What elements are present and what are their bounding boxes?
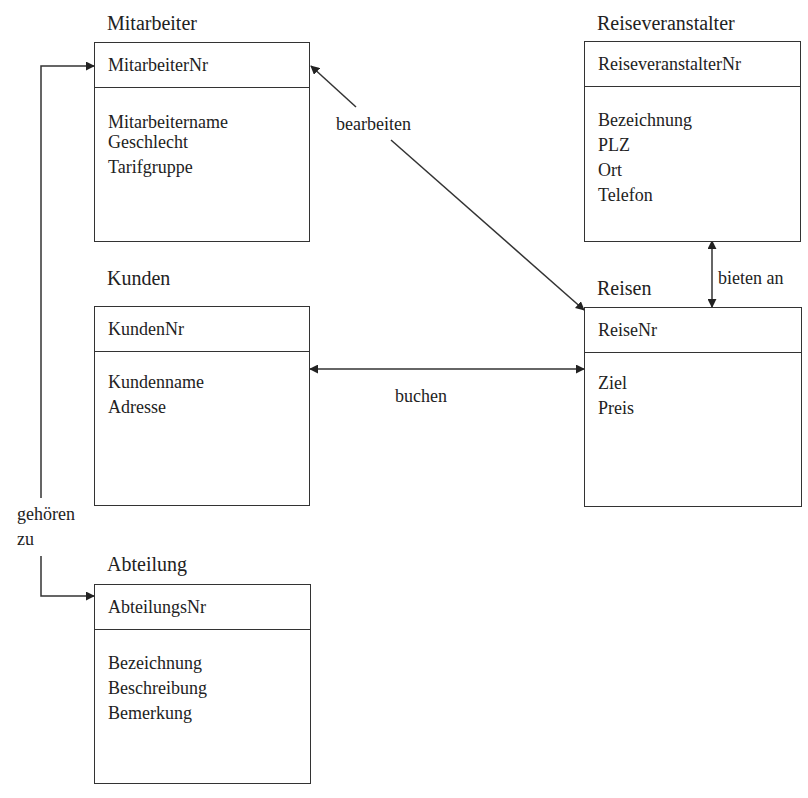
entity-abteilung: AbteilungsNr Bezeichnung Beschreibung Be…: [94, 584, 311, 784]
attribute: Beschreibung: [108, 676, 207, 701]
attribute: Tarifgruppe: [108, 156, 228, 179]
entity-title-kunden: Kunden: [107, 267, 170, 289]
primary-key-kunden: KundenNr: [95, 307, 309, 352]
label-line: zu: [17, 527, 75, 552]
attribute: Ort: [598, 158, 692, 183]
attribute-list-kunden: Kundenname Adresse: [108, 370, 204, 420]
attribute: PLZ: [598, 133, 692, 158]
primary-key-mitarbeiter: MitarbeiterNr: [95, 43, 309, 88]
attribute: Kundenname: [108, 370, 204, 395]
key-label: ReiseveranstalterNr: [598, 54, 741, 75]
entity-title-abteilung: Abteilung: [107, 553, 187, 575]
attribute: Bezeichnung: [598, 108, 692, 133]
attribute-list-reiseveranstalter: Bezeichnung PLZ Ort Telefon: [598, 108, 692, 208]
label-line: gehören: [17, 502, 75, 527]
relationship-label-buchen: buchen: [395, 386, 447, 406]
bearbeiten-connector: [311, 66, 584, 310]
entity-kunden: KundenNr Kundenname Adresse: [94, 306, 310, 506]
attribute: Telefon: [598, 183, 692, 208]
entity-mitarbeiter: MitarbeiterNr Mitarbeitername Geschlecht…: [94, 42, 310, 242]
primary-key-reiseveranstalter: ReiseveranstalterNr: [585, 42, 800, 87]
attribute: Ziel: [598, 371, 634, 396]
entity-title-mitarbeiter: Mitarbeiter: [107, 12, 197, 34]
entity-title-reisen: Reisen: [597, 277, 651, 299]
primary-key-reisen: ReiseNr: [585, 308, 801, 353]
attribute: Preis: [598, 396, 634, 421]
attribute: Bezeichnung: [108, 651, 207, 676]
attribute-list-abteilung: Bezeichnung Beschreibung Bemerkung: [108, 651, 207, 726]
entity-reisen: ReiseNr Ziel Preis: [584, 307, 802, 507]
relationship-label-bieten-an: bieten an: [718, 268, 783, 288]
attribute-list-mitarbeiter: Mitarbeitername Geschlecht Tarifgruppe: [108, 111, 228, 179]
entity-reiseveranstalter: ReiseveranstalterNr Bezeichnung PLZ Ort …: [584, 41, 801, 242]
attribute: Geschlecht: [108, 131, 228, 154]
entity-title-reiseveranstalter: Reiseveranstalter: [597, 12, 735, 34]
primary-key-abteilung: AbteilungsNr: [95, 585, 310, 630]
key-label: KundenNr: [108, 319, 184, 340]
key-label: AbteilungsNr: [108, 597, 206, 618]
attribute: Bemerkung: [108, 701, 207, 726]
key-label: MitarbeiterNr: [108, 55, 208, 76]
key-label: ReiseNr: [598, 320, 657, 341]
relationship-label-bearbeiten: bearbeiten: [336, 114, 411, 134]
attribute-list-reisen: Ziel Preis: [598, 371, 634, 421]
relationship-label-gehoeren-zu: gehören zu: [17, 502, 75, 552]
attribute: Adresse: [108, 395, 204, 420]
